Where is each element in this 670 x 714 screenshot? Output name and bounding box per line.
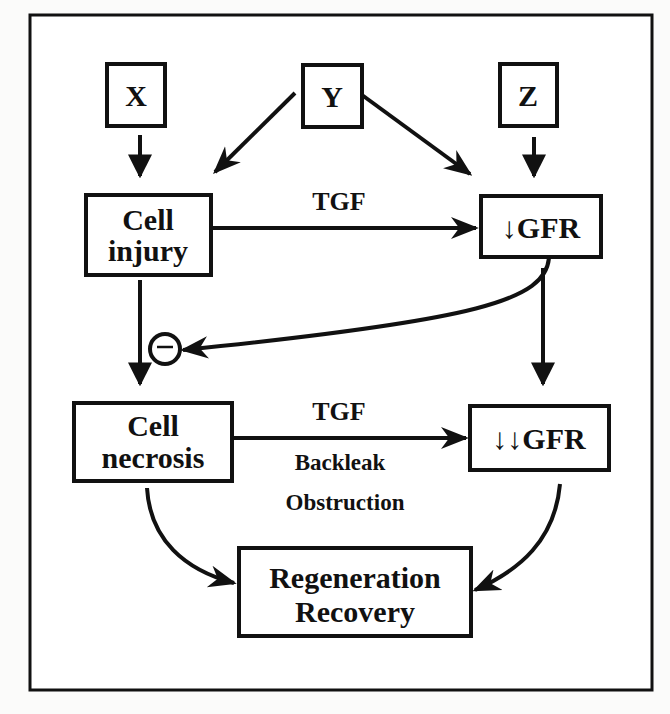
regeneration-line2: Recovery [295,595,415,628]
edge-label-obstruction: Obstruction [286,490,405,515]
node-cell-necrosis: Cell necrosis [74,403,232,481]
node-gfr-decreased: ↓GFR [481,196,601,257]
node-z: Z [500,64,557,126]
diagram-canvas: X Y Z Cell injury ↓GFR Cell necrosis ↓↓G… [0,0,670,714]
edge-label-tgf-top: TGF [312,187,365,216]
cell-necrosis-line2: necrosis [102,441,205,474]
node-y: Y [303,65,362,127]
double-down-arrow-icon: ↓↓ [492,422,522,455]
edge-label-tgf-bottom: TGF [312,397,365,426]
node-y-label: Y [321,80,343,113]
node-gfr-markedly-decreased: ↓↓GFR [470,406,609,470]
node-x-label: X [125,79,147,112]
edge-label-backleak: Backleak [295,450,386,475]
svg-text:↓GFR: ↓GFR [502,211,581,244]
node-z-label: Z [518,79,538,112]
cell-injury-line1: Cell [122,203,174,236]
node-regeneration-recovery: Regeneration Recovery [239,548,471,636]
svg-text:↓↓GFR: ↓↓GFR [492,422,586,455]
cell-injury-line2: injury [108,234,188,267]
gfr-label: GFR [517,211,581,244]
down-arrow-icon: ↓ [502,211,517,244]
cell-necrosis-line1: Cell [127,409,179,442]
inhibition-minus-icon [150,334,180,364]
node-x: X [107,64,165,126]
node-cell-injury: Cell injury [86,195,211,275]
gfr-label: GFR [522,422,586,455]
regeneration-line1: Regeneration [269,561,441,594]
